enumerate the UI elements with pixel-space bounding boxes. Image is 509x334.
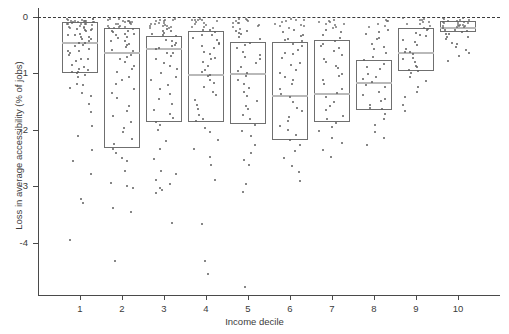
data-point: [128, 76, 130, 78]
data-point: [459, 24, 461, 26]
data-point: [331, 126, 333, 128]
data-point: [82, 84, 84, 86]
data-point: [204, 69, 206, 71]
data-point: [203, 51, 205, 53]
data-point: [112, 207, 114, 209]
data-point: [406, 23, 408, 25]
data-point: [416, 66, 418, 68]
data-point: [417, 70, 419, 72]
data-point: [204, 260, 206, 262]
data-point: [164, 24, 166, 26]
data-point: [167, 84, 169, 86]
data-point: [195, 120, 197, 122]
data-point: [284, 76, 286, 78]
data-point: [201, 45, 203, 47]
data-point: [338, 47, 340, 49]
data-point: [168, 27, 170, 29]
data-point: [157, 129, 159, 131]
data-point: [245, 183, 247, 185]
data-point: [126, 56, 128, 58]
data-point: [245, 105, 247, 107]
data-point: [91, 28, 93, 30]
data-point: [79, 33, 81, 35]
data-point: [448, 33, 450, 35]
x-tick-mark-6: [290, 295, 291, 300]
data-point: [90, 173, 92, 175]
data-point: [203, 26, 205, 28]
data-point: [81, 38, 83, 40]
data-point: [445, 33, 447, 35]
median-line-decile-1: [62, 42, 98, 44]
data-point: [85, 20, 87, 22]
data-point: [150, 79, 152, 81]
data-point: [194, 19, 196, 21]
data-point: [77, 71, 79, 73]
data-point: [116, 97, 118, 99]
data-point: [155, 58, 157, 60]
data-point: [419, 19, 421, 21]
x-tick-label-5: 5: [233, 303, 263, 314]
data-point: [128, 20, 130, 22]
data-point: [162, 34, 164, 36]
data-point: [301, 45, 303, 47]
data-point: [115, 23, 117, 25]
data-point: [467, 36, 469, 38]
data-point: [209, 79, 211, 81]
data-point: [175, 35, 177, 37]
data-point: [325, 61, 327, 63]
data-point: [336, 92, 338, 94]
data-point: [442, 25, 444, 27]
x-tick-label-3: 3: [149, 303, 179, 314]
data-point: [303, 19, 305, 21]
data-point: [115, 152, 117, 154]
data-point: [74, 45, 76, 47]
data-point: [383, 137, 385, 139]
data-point: [133, 65, 135, 67]
data-point: [92, 18, 94, 20]
data-point: [341, 73, 343, 75]
data-point: [126, 44, 128, 46]
data-point: [88, 103, 90, 105]
median-line-decile-6: [272, 95, 308, 97]
data-point: [107, 25, 109, 27]
data-point: [197, 19, 199, 21]
data-point: [111, 30, 113, 32]
data-point: [376, 38, 378, 40]
data-point: [207, 273, 209, 275]
data-point: [283, 157, 285, 159]
data-point: [170, 26, 172, 28]
data-point: [447, 20, 449, 22]
data-point: [292, 53, 294, 55]
data-point: [281, 57, 283, 59]
data-point: [301, 40, 303, 42]
data-point: [378, 31, 380, 33]
data-point: [343, 23, 345, 25]
data-point: [75, 60, 77, 62]
data-point: [402, 58, 404, 60]
data-point: [129, 21, 131, 23]
data-point: [238, 22, 240, 24]
median-line-decile-9: [398, 52, 434, 54]
data-point: [402, 104, 404, 106]
data-point: [81, 19, 83, 21]
data-point: [235, 20, 237, 22]
data-point: [166, 52, 168, 54]
data-point: [259, 54, 261, 56]
data-point: [362, 94, 364, 96]
data-point: [249, 42, 251, 44]
data-point: [279, 25, 281, 27]
y-tick-mark-2: [33, 130, 38, 131]
data-point: [205, 24, 207, 26]
data-point: [163, 32, 165, 34]
y-tick-mark-4: [33, 243, 38, 244]
data-point: [254, 124, 256, 126]
data-point: [289, 139, 291, 141]
data-point: [130, 23, 132, 25]
data-point: [292, 79, 294, 81]
data-point: [201, 19, 203, 21]
data-point: [366, 144, 368, 146]
data-point: [70, 20, 72, 22]
data-point: [170, 55, 172, 57]
data-point: [378, 37, 380, 39]
data-point: [341, 54, 343, 56]
